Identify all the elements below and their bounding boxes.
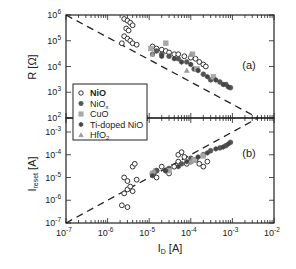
data-point-open-circle xyxy=(201,164,206,169)
data-point-filled-square xyxy=(163,41,168,46)
data-point-filled-hexagon xyxy=(196,155,200,160)
data-point-open-circle xyxy=(182,155,187,160)
panel-label-b: (b) xyxy=(242,147,255,159)
data-point-open-circle xyxy=(134,177,139,182)
x-tick-label: 10-5 xyxy=(139,226,155,238)
y-axis-title-top: R [Ω] xyxy=(26,54,38,79)
data-point-filled-hexagon xyxy=(164,168,168,173)
data-point-open-circle xyxy=(203,64,208,69)
data-point-filled-hexagon xyxy=(221,82,225,87)
data-point-open-circle xyxy=(134,42,139,47)
chart: 10610510410310210-310-410-510-610-710-71… xyxy=(0,0,296,269)
legend-item-label: CuO xyxy=(90,109,109,119)
x-tick-label: 10-3 xyxy=(223,226,239,238)
y-tick-label-top: 105 xyxy=(47,34,61,46)
data-point-open-circle xyxy=(128,184,133,189)
data-point-open-circle xyxy=(130,23,135,28)
data-point-open-circle xyxy=(182,54,187,59)
data-point-filled-hexagon xyxy=(189,62,193,67)
data-point-open-circle xyxy=(119,41,124,46)
data-point-filled-hexagon xyxy=(205,151,209,156)
data-point-filled-hexagon xyxy=(185,159,189,164)
data-point-open-circle xyxy=(205,159,210,164)
data-point-open-circle xyxy=(176,52,181,57)
x-tick-label: 10-4 xyxy=(181,226,197,238)
data-point-filled-hexagon xyxy=(150,173,154,178)
data-point-open-circle xyxy=(179,150,184,155)
y-tick-label-bottom: 10-6 xyxy=(45,193,61,205)
data-point-filled-hexagon xyxy=(79,122,83,126)
data-point-filled-circle xyxy=(154,49,159,54)
legend-item-label: Ti-doped NiO xyxy=(90,120,143,130)
data-point-filled-triangle xyxy=(184,68,189,72)
y-tick-label-top: 104 xyxy=(47,60,61,72)
data-point-filled-square xyxy=(79,112,83,116)
panel-label-a: (a) xyxy=(242,59,255,71)
data-point-filled-hexagon xyxy=(180,60,184,65)
legend-box xyxy=(73,84,147,140)
data-point-filled-hexagon xyxy=(221,145,225,150)
data-point-filled-hexagon xyxy=(214,147,218,152)
data-point-filled-hexagon xyxy=(214,78,218,83)
data-point-filled-hexagon xyxy=(205,74,209,79)
data-point-filled-hexagon xyxy=(172,56,176,61)
y-tick-label-bottom: 10-7 xyxy=(45,216,61,228)
data-point-open-circle xyxy=(125,179,130,184)
data-point-open-circle xyxy=(125,205,130,210)
data-point-open-circle xyxy=(79,91,83,95)
x-axis-title: ID [A] xyxy=(158,242,183,255)
data-point-filled-hexagon xyxy=(196,68,200,73)
data-point-open-circle xyxy=(130,189,135,194)
x-tick-label: 10-6 xyxy=(98,226,114,238)
data-point-filled-circle xyxy=(79,101,83,105)
data-point-filled-hexagon xyxy=(176,164,180,169)
data-point-open-circle xyxy=(126,28,131,33)
x-tick-label: 10-2 xyxy=(264,226,280,238)
y-axis-title-bottom: Ireset [A] xyxy=(26,156,39,191)
data-point-open-circle xyxy=(119,203,124,208)
data-point-filled-circle xyxy=(167,54,172,59)
legend-item-label: NiO xyxy=(90,88,106,98)
data-point-filled-hexagon xyxy=(160,54,164,59)
data-point-open-circle xyxy=(159,164,164,169)
y-tick-label-bottom: 10-4 xyxy=(45,148,61,160)
data-point-open-circle xyxy=(132,161,137,166)
x-tick-label: 10-7 xyxy=(56,226,72,238)
y-tick-label-top: 106 xyxy=(47,8,61,20)
y-tick-label-top: 103 xyxy=(47,85,61,97)
y-tick-label-top: 102 xyxy=(47,111,61,123)
data-point-filled-hexagon xyxy=(226,85,230,90)
legend: NiONiOxCuOTi-doped NiOHfO2 xyxy=(73,84,147,141)
data-point-filled-hexagon xyxy=(226,142,230,147)
data-point-filled-square xyxy=(149,46,154,51)
y-tick-label-bottom: 10-3 xyxy=(45,125,61,137)
y-tick-label-bottom: 10-5 xyxy=(45,171,61,183)
